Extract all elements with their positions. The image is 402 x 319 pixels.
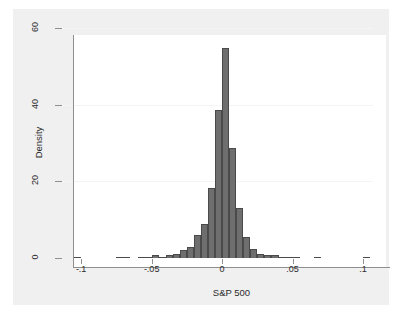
y-axis-line — [73, 35, 74, 268]
histogram-bar — [123, 257, 130, 258]
y-axis-title: Density — [33, 108, 44, 178]
histogram-bar — [293, 257, 300, 258]
x-tick-label: -.1 — [61, 264, 101, 274]
histogram-bar — [116, 257, 123, 258]
gridline-y-60 — [61, 28, 373, 29]
y-tick-label: 60 — [30, 16, 40, 38]
histogram-bar — [222, 48, 229, 258]
y-tick-mark — [55, 105, 62, 106]
x-tick-label: -.05 — [132, 264, 172, 274]
y-tick-mark — [55, 181, 62, 182]
histogram-bar — [236, 208, 243, 258]
graph-region: 0204060 -.1-.050.05.1 Density S&P 500 — [13, 9, 389, 305]
histogram-bar — [194, 235, 201, 258]
histogram-bar — [187, 247, 194, 258]
y-tick-mark — [55, 28, 62, 29]
histogram-bar — [208, 188, 215, 258]
histogram-bar — [229, 148, 236, 258]
x-axis-title: S&P 500 — [73, 287, 390, 298]
histogram-bar — [279, 257, 286, 258]
histogram-bar — [74, 257, 81, 258]
histogram-bar — [271, 255, 278, 258]
histogram-bar — [180, 250, 187, 258]
histogram-bar — [363, 257, 370, 258]
histogram-bar — [314, 257, 321, 258]
histogram-bar — [250, 249, 257, 258]
histogram-bar — [173, 254, 180, 258]
x-tick-label: .1 — [343, 264, 383, 274]
figure-canvas: 0204060 -.1-.050.05.1 Density S&P 500 — [0, 0, 402, 319]
histogram-bar — [264, 255, 271, 258]
histogram-bar — [243, 237, 250, 258]
histogram-bar — [257, 254, 264, 258]
x-tick-label: 0 — [202, 264, 242, 274]
histogram-bar — [215, 110, 222, 258]
histogram-bar — [145, 257, 152, 258]
histogram-bar — [152, 255, 159, 258]
y-tick-label: 0 — [30, 246, 40, 268]
histogram-bar — [166, 255, 173, 258]
y-tick-mark — [55, 258, 62, 259]
histogram-bar — [138, 257, 145, 258]
histogram-bar — [286, 257, 293, 258]
histogram-bar — [159, 257, 166, 258]
histogram-bar — [201, 224, 208, 259]
x-tick-label: .05 — [273, 264, 313, 274]
gridline-y-40 — [61, 105, 373, 106]
